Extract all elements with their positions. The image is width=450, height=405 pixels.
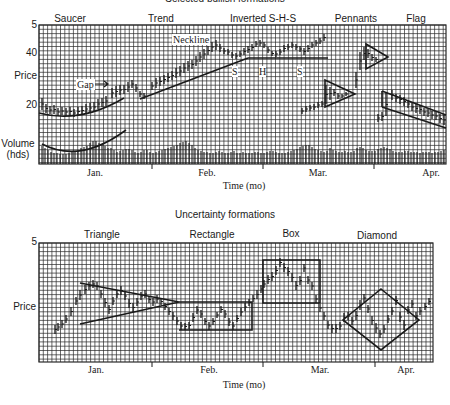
top-chart-grid <box>39 25 446 169</box>
volume-axis-unit: (hds) <box>7 149 30 160</box>
top-y-label-40: 40 <box>26 47 37 58</box>
formation-label-box: Box <box>282 228 299 239</box>
top-x-axis-title: Time (mo) <box>223 180 266 191</box>
top-month-jan: Jan. <box>87 167 103 178</box>
annotation-left-shoulder: S <box>232 66 238 77</box>
formation-label-rectangle: Rectangle <box>189 229 234 240</box>
annotation-gap: Gap <box>76 79 95 90</box>
bottom-month-jan: Jan. <box>88 364 104 375</box>
formation-label-triangle: Triangle <box>84 229 120 240</box>
formation-label-diamond: Diamond <box>357 230 397 241</box>
bottom-y-label-5: 5 <box>31 236 37 247</box>
bottom-x-axis-title: Time (mo) <box>223 379 266 390</box>
formation-label-inverted-shs: Inverted S-H-S <box>230 13 296 24</box>
annotation-head: H <box>259 66 266 77</box>
bottom-month-mar: Mar. <box>311 364 330 375</box>
bottom-chart-grid <box>39 243 433 367</box>
bottom-month-apr: Apr. <box>397 364 415 375</box>
annotation-neckline: Neckline <box>172 34 210 45</box>
top-month-mar: Mar. <box>309 167 328 178</box>
formation-label-trend: Trend <box>148 13 174 24</box>
top-month-feb: Feb. <box>198 167 216 178</box>
top-y-label-20: 20 <box>26 99 37 110</box>
volume-axis-label: Volume <box>1 138 34 149</box>
technical-charts-canvas <box>0 0 450 405</box>
top-y-label-5: 5 <box>31 19 37 30</box>
formation-label-flag: Flag <box>406 13 425 24</box>
annotation-right-shoulder: S <box>297 66 303 77</box>
bottom-chart-title: Uncertainty formations <box>175 209 275 220</box>
bottom-month-feb: Feb. <box>200 364 218 375</box>
formation-label-saucer: Saucer <box>54 13 86 24</box>
formation-label-pennants: Pennants <box>335 13 377 24</box>
top-y-axis-label-price: Price <box>14 70 37 81</box>
top-month-apr: Apr. <box>422 167 440 178</box>
top-chart-title: Selected bullish formations <box>165 0 285 4</box>
bottom-y-axis-label-price: Price <box>13 301 36 312</box>
